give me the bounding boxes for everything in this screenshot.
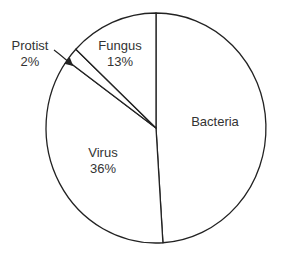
label-virus-name: Virus: [78, 145, 128, 161]
label-protist-name: Protist: [8, 38, 52, 54]
label-protist-pct: 2%: [8, 54, 52, 70]
label-protist: Protist 2%: [8, 38, 52, 70]
label-bacteria-name: Bacteria: [180, 114, 250, 130]
label-fungus-name: Fungus: [95, 38, 145, 54]
label-virus-pct: 36%: [78, 161, 128, 177]
label-fungus: Fungus 13%: [95, 38, 145, 70]
label-bacteria: Bacteria: [180, 114, 250, 130]
label-fungus-pct: 13%: [95, 54, 145, 70]
label-virus: Virus 36%: [78, 145, 128, 177]
